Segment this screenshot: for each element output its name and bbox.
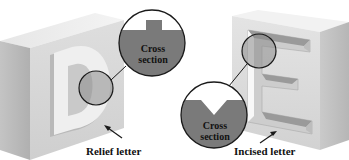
incised-block-side: [320, 22, 349, 150]
incised-block: [232, 10, 349, 150]
incised-detail-circle: [242, 34, 276, 68]
relief-cross-section-label-1: Cross: [141, 43, 165, 54]
lettering-diagram: Cross section Relief letter: [0, 0, 349, 160]
relief-cross-section-label-2: section: [138, 54, 168, 65]
incised-cross-section-label-1: Cross: [203, 120, 227, 131]
incised-cross-section-label-2: section: [200, 131, 230, 142]
relief-detail-circle: [79, 71, 113, 105]
relief-block-side: [0, 41, 30, 160]
relief-letter-label: Relief letter: [86, 145, 141, 157]
incised-letter-label: Incised letter: [234, 145, 296, 157]
